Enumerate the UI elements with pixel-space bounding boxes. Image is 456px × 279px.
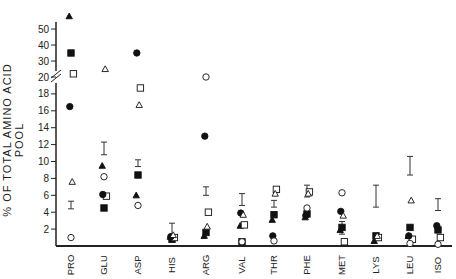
- open-triangle-marker: [408, 197, 414, 203]
- y-tick-label: 30: [38, 56, 50, 67]
- x-category-label: VAL: [236, 256, 247, 273]
- error-bar: [135, 160, 141, 167]
- error-bar: [203, 187, 209, 195]
- y-tick-label: 18: [38, 88, 50, 99]
- open-circle-marker: [271, 238, 277, 244]
- open-circle-marker: [407, 240, 413, 246]
- x-category-label: LEU: [404, 256, 415, 275]
- open-circle-marker: [68, 234, 74, 240]
- open-circle-marker: [239, 239, 245, 245]
- open-square-marker: [241, 222, 247, 228]
- open-circle-marker: [135, 202, 141, 208]
- open-square-marker: [205, 209, 211, 215]
- y-tick-label: 10: [38, 156, 50, 167]
- filled-circle-marker: [303, 212, 309, 218]
- y-tick-label: 50: [38, 24, 50, 35]
- y-tick-label: 12: [38, 139, 50, 150]
- x-category-label: GLU: [98, 255, 109, 275]
- filled-square-marker: [203, 229, 209, 235]
- filled-square-marker: [135, 172, 141, 178]
- y-tick-label: 20: [38, 72, 50, 83]
- filled-square-marker: [407, 224, 413, 230]
- open-square-marker: [341, 239, 347, 245]
- filled-circle-marker: [134, 50, 140, 56]
- x-category-label: HIS: [166, 257, 177, 273]
- x-category-label: PHE: [301, 255, 312, 275]
- open-triangle-marker: [102, 66, 108, 72]
- open-circle-marker: [101, 174, 107, 180]
- x-category-label: LYS: [370, 256, 381, 273]
- filled-square-marker: [271, 212, 277, 218]
- error-bar: [435, 199, 441, 211]
- error-bar: [239, 194, 245, 206]
- x-category-label: MET: [336, 255, 347, 275]
- x-category-label: THR: [268, 255, 279, 275]
- open-square-marker: [437, 234, 443, 240]
- error-bar: [373, 185, 379, 207]
- error-bar: [68, 201, 74, 209]
- filled-circle-marker: [100, 191, 106, 197]
- y-tick-label: 14: [38, 122, 50, 133]
- x-category-label: ASP: [132, 255, 143, 274]
- axis-break-icon: [51, 70, 61, 82]
- y-axis-label: % OF TOTAL AMINO ACID POOL: [1, 55, 25, 225]
- y-tick-label: 2: [43, 224, 49, 235]
- y-tick-label: 8: [43, 173, 49, 184]
- amino-acid-chart: 2468101214161820304050PROGLUASPHISARGVAL…: [0, 0, 456, 279]
- x-category-label: PRO: [65, 255, 76, 276]
- filled-circle-marker: [202, 133, 208, 139]
- open-triangle-marker: [136, 102, 142, 108]
- filled-square-marker: [101, 205, 107, 211]
- open-square-marker: [70, 71, 76, 77]
- error-bar: [271, 200, 277, 207]
- error-bar: [101, 142, 107, 155]
- open-triangle-marker: [204, 223, 210, 229]
- open-circle-marker: [203, 74, 209, 80]
- filled-triangle-marker: [66, 13, 72, 19]
- filled-circle-marker: [67, 103, 73, 109]
- filled-circle-marker: [434, 223, 440, 229]
- x-category-label: ISO: [432, 257, 443, 273]
- open-circle-marker: [435, 241, 441, 247]
- filled-triangle-marker: [99, 163, 105, 169]
- open-circle-marker: [304, 205, 310, 211]
- filled-square-marker: [339, 224, 345, 230]
- y-tick-label: 6: [43, 190, 49, 201]
- y-tick-label: 4: [43, 207, 49, 218]
- open-circle-marker: [339, 190, 345, 196]
- open-triangle-marker: [69, 179, 75, 185]
- filled-circle-marker: [406, 233, 412, 239]
- plot-area: 2468101214161820304050PROGLUASPHISARGVAL…: [0, 0, 456, 279]
- x-category-label: ARG: [200, 255, 211, 276]
- y-tick-label: 16: [38, 105, 50, 116]
- error-bar: [407, 156, 413, 175]
- filled-square-marker: [68, 50, 74, 56]
- y-tick-label: 40: [38, 40, 50, 51]
- open-square-marker: [137, 85, 143, 91]
- filled-triangle-marker: [133, 192, 139, 198]
